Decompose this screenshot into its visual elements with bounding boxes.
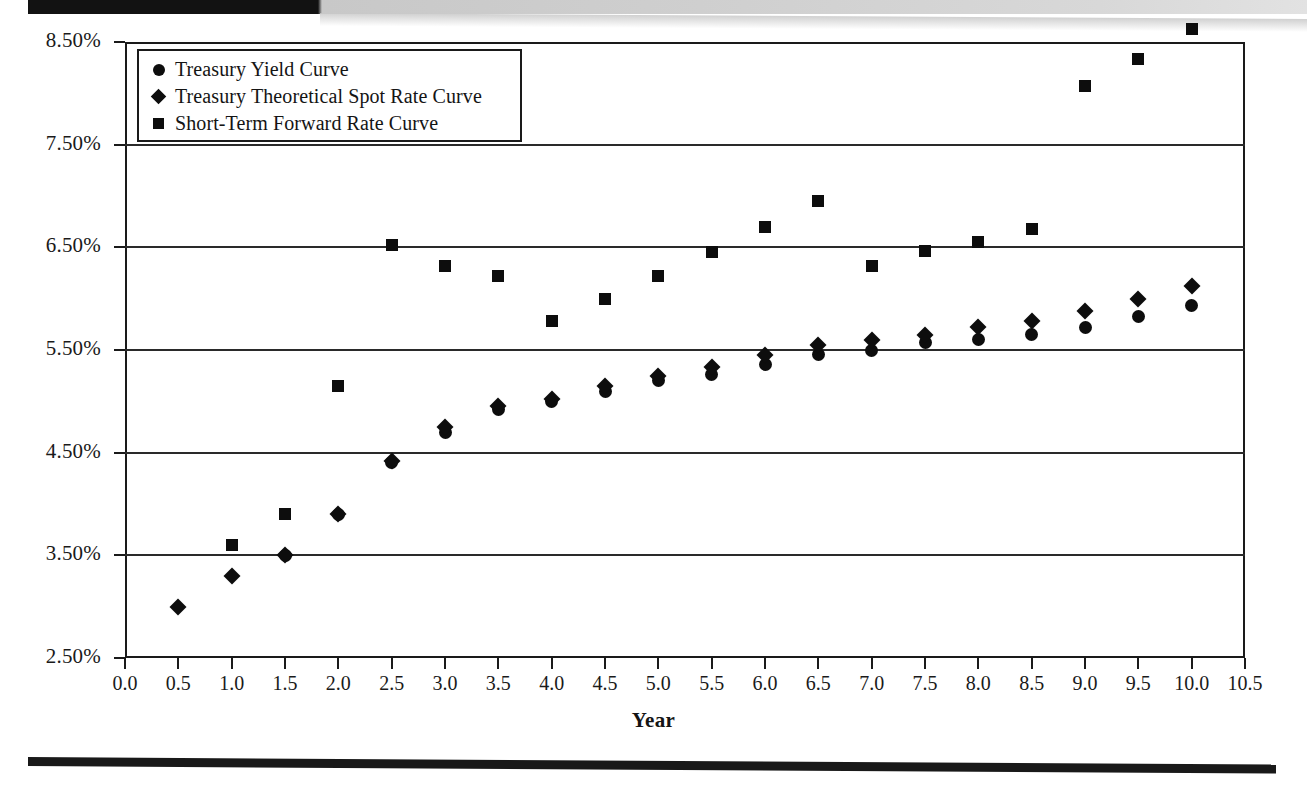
data-point-square — [1186, 23, 1198, 35]
x-axis-tick — [817, 658, 819, 669]
data-point-square — [866, 260, 878, 272]
data-point-square — [492, 270, 504, 282]
y-axis-tick-label: 3.50% — [15, 541, 101, 566]
y-axis-tick-label: 4.50% — [15, 439, 101, 464]
data-point-circle — [1132, 310, 1145, 323]
legend-label: Treasury Yield Curve — [175, 58, 349, 81]
legend-label: Short-Term Forward Rate Curve — [175, 112, 438, 135]
x-axis-tick — [444, 658, 446, 669]
x-axis-tick — [1084, 658, 1086, 669]
data-point-square — [1026, 223, 1038, 235]
data-point-square — [439, 260, 451, 272]
data-point-square — [386, 239, 398, 251]
data-point-square — [972, 236, 984, 248]
x-axis-title: Year — [0, 708, 1307, 733]
x-axis-tick — [1031, 658, 1033, 669]
x-axis-tick — [124, 658, 126, 669]
y-axis-tick — [114, 144, 125, 146]
data-point-square — [226, 539, 238, 551]
x-axis-tick — [177, 658, 179, 669]
data-point-square — [919, 245, 931, 257]
data-point-square — [1132, 53, 1144, 65]
x-axis-tick — [657, 658, 659, 669]
y-axis-tick — [114, 246, 125, 248]
x-axis-tick — [497, 658, 499, 669]
x-axis-tick — [1137, 658, 1139, 669]
x-axis-tick — [604, 658, 606, 669]
x-axis-tick — [871, 658, 873, 669]
y-axis-tick — [114, 554, 125, 556]
gridline — [125, 349, 1245, 351]
y-axis-tick — [114, 452, 125, 454]
x-axis-tick-label: 10.5 — [1210, 672, 1280, 695]
data-point-square — [599, 293, 611, 305]
data-point-square — [1079, 80, 1091, 92]
y-axis-tick-label: 7.50% — [15, 131, 101, 156]
x-axis-tick — [924, 658, 926, 669]
legend-label: Treasury Theoretical Spot Rate Curve — [175, 85, 482, 108]
y-axis-tick — [114, 41, 125, 43]
y-axis-tick-label: 5.50% — [15, 336, 101, 361]
yield-curve-chart: 2.50%3.50%4.50%5.50%6.50%7.50%8.50% 0.00… — [0, 0, 1307, 786]
data-point-circle — [1079, 321, 1092, 334]
x-axis-tick — [231, 658, 233, 669]
x-axis-tick — [551, 658, 553, 669]
gridline — [125, 452, 1245, 454]
y-axis-tick-label: 6.50% — [15, 233, 101, 258]
x-axis-tick — [391, 658, 393, 669]
chart-legend: Treasury Yield Curve Treasury Theoretica… — [137, 49, 522, 142]
data-point-square — [652, 270, 664, 282]
gridline — [125, 144, 1245, 146]
x-axis-tick — [711, 658, 713, 669]
legend-item-forward-rate-curve: Short-Term Forward Rate Curve — [153, 110, 520, 137]
data-point-square — [759, 221, 771, 233]
x-axis-tick — [337, 658, 339, 669]
x-axis-tick — [284, 658, 286, 669]
data-point-square — [279, 508, 291, 520]
y-axis-tick-label: 2.50% — [15, 644, 101, 669]
diamond-marker-icon — [153, 91, 175, 102]
circle-marker-icon — [153, 64, 175, 76]
data-point-square — [332, 380, 344, 392]
gridline — [125, 246, 1245, 248]
data-point-square — [812, 195, 824, 207]
legend-item-spot-rate-curve: Treasury Theoretical Spot Rate Curve — [153, 83, 520, 110]
y-axis-tick — [114, 349, 125, 351]
data-point-square — [546, 315, 558, 327]
data-point-square — [706, 246, 718, 258]
y-axis-tick-label: 8.50% — [15, 28, 101, 53]
x-axis-tick — [1191, 658, 1193, 669]
legend-item-treasury-yield-curve: Treasury Yield Curve — [153, 56, 520, 83]
x-axis-tick — [1244, 658, 1246, 669]
x-axis-tick — [977, 658, 979, 669]
x-axis-tick — [764, 658, 766, 669]
square-marker-icon — [153, 118, 175, 129]
